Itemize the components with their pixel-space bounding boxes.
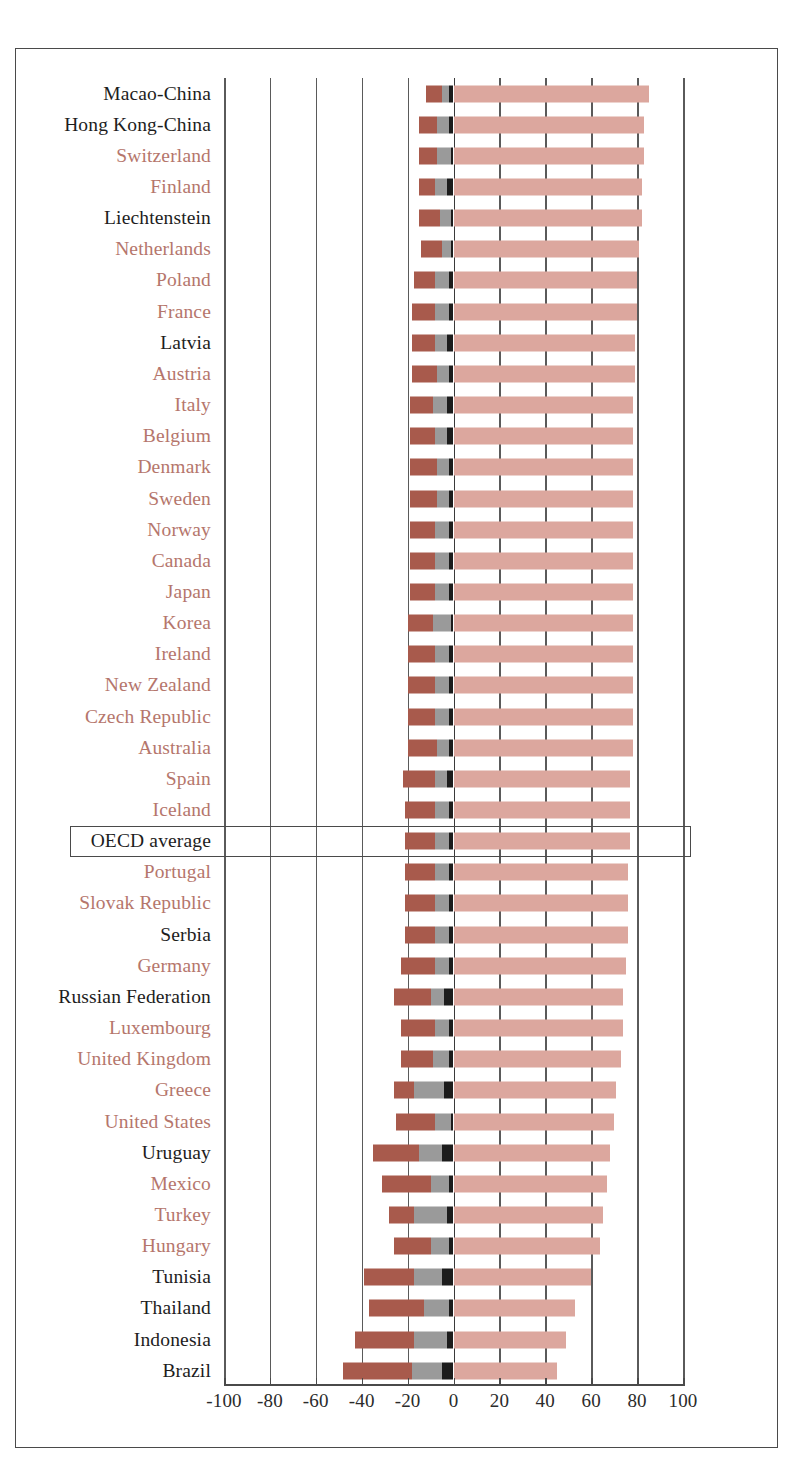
bar-segment-below-level-1 [408, 708, 436, 725]
row-label-slovak-republic: Slovak Republic [79, 894, 211, 914]
bar-segment-level-1 [433, 397, 447, 414]
bar-segment-below-level-1 [410, 397, 433, 414]
bar-segment-below-level-1 [412, 303, 435, 320]
stacked-bar [224, 272, 683, 289]
bar-row: Hungary [0, 1231, 794, 1262]
bar-segment-below-level-1 [419, 210, 440, 227]
bar-segment-level-3-and-above [454, 583, 633, 600]
bar-segment-below-level-1 [408, 739, 438, 756]
bar-segment-below-level-1 [405, 926, 435, 943]
row-label-austria: Austria [153, 364, 211, 384]
row-label-united-kingdom: United Kingdom [77, 1049, 211, 1069]
row-label-mexico: Mexico [151, 1174, 211, 1194]
row-label-liechtenstein: Liechtenstein [104, 208, 211, 228]
stacked-bar [224, 1362, 683, 1379]
bar-segment-level-3-and-above [454, 739, 633, 756]
bar-row: Czech Republic [0, 701, 794, 732]
bar-row: Sweden [0, 483, 794, 514]
stacked-bar [224, 988, 683, 1005]
row-label-serbia: Serbia [160, 925, 211, 945]
bar-row: Netherlands [0, 234, 794, 265]
x-tick-20 [499, 1378, 501, 1386]
bar-segment-level-2 [442, 1144, 453, 1161]
bar-row: Macao-China [0, 78, 794, 109]
stacked-bar [224, 210, 683, 227]
row-label-macao-china: Macao-China [103, 84, 211, 104]
bar-segment-level-1 [435, 179, 446, 196]
bar-segment-below-level-1 [343, 1362, 412, 1379]
row-label-iceland: Iceland [153, 800, 211, 820]
row-label-indonesia: Indonesia [134, 1330, 211, 1350]
bar-segment-level-3-and-above [454, 1238, 601, 1255]
x-tick--60 [316, 1378, 318, 1386]
row-label-japan: Japan [166, 582, 211, 602]
row-label-belgium: Belgium [143, 426, 211, 446]
row-label-italy: Italy [175, 395, 211, 415]
x-tick-label-100: 100 [653, 1390, 713, 1412]
bar-segment-level-1 [435, 770, 446, 787]
bar-segment-level-1 [424, 1300, 449, 1317]
row-label-australia: Australia [138, 738, 211, 758]
row-label-finland: Finland [150, 177, 211, 197]
bar-segment-level-1 [442, 85, 449, 102]
bar-segment-level-3-and-above [454, 677, 633, 694]
bar-segment-level-1 [435, 677, 449, 694]
bar-segment-level-1 [435, 646, 449, 663]
bar-segment-level-3-and-above [454, 708, 633, 725]
bar-row: Belgium [0, 421, 794, 452]
bar-segment-level-3-and-above [454, 1300, 576, 1317]
bar-row: Greece [0, 1075, 794, 1106]
row-label-luxembourg: Luxembourg [109, 1018, 211, 1038]
x-tick-40 [545, 1378, 547, 1386]
bar-segment-level-1 [437, 147, 451, 164]
stacked-bar [224, 615, 683, 632]
bar-segment-level-1 [435, 708, 449, 725]
bar-segment-level-1 [437, 459, 448, 476]
bar-row: Hong Kong-China [0, 109, 794, 140]
bar-segment-level-1 [412, 1362, 442, 1379]
bar-segment-below-level-1 [355, 1331, 415, 1348]
bar-segment-level-3-and-above [454, 1144, 610, 1161]
bar-segment-level-3-and-above [454, 147, 644, 164]
bar-row: Austria [0, 358, 794, 389]
bar-segment-level-1 [435, 864, 449, 881]
bar-segment-level-3-and-above [454, 1362, 557, 1379]
chart-page: Macao-ChinaHong Kong-ChinaSwitzerlandFin… [0, 0, 794, 1477]
bar-segment-below-level-1 [408, 615, 433, 632]
bar-segment-level-1 [414, 1331, 446, 1348]
bar-segment-level-2 [447, 428, 454, 445]
x-tick-60 [591, 1378, 593, 1386]
stacked-bar [224, 957, 683, 974]
bar-segment-level-3-and-above [454, 490, 633, 507]
bar-segment-level-3-and-above [454, 615, 633, 632]
bar-segment-level-1 [442, 241, 451, 258]
bar-segment-below-level-1 [394, 1082, 415, 1099]
bar-segment-level-3-and-above [454, 365, 635, 382]
bar-segment-level-2 [444, 988, 453, 1005]
row-label-portugal: Portugal [144, 863, 211, 883]
bar-segment-below-level-1 [401, 1051, 433, 1068]
stacked-bar [224, 241, 683, 258]
row-label-korea: Korea [163, 613, 211, 633]
bar-row: Thailand [0, 1293, 794, 1324]
stacked-bar [224, 864, 683, 881]
bar-segment-level-3-and-above [454, 895, 628, 912]
stacked-bar [224, 770, 683, 787]
bar-segment-level-3-and-above [454, 428, 633, 445]
bar-segment-level-3-and-above [454, 1206, 603, 1223]
row-label-sweden: Sweden [148, 489, 211, 509]
bar-segment-level-3-and-above [454, 1082, 617, 1099]
bar-segment-below-level-1 [403, 770, 435, 787]
bar-row: Finland [0, 171, 794, 202]
row-label-france: France [157, 302, 211, 322]
bar-row: Poland [0, 265, 794, 296]
bar-segment-level-1 [414, 1082, 444, 1099]
bar-segment-level-3-and-above [454, 1269, 592, 1286]
bar-row: Russian Federation [0, 981, 794, 1012]
x-tick--20 [408, 1378, 410, 1386]
bar-segment-below-level-1 [369, 1300, 424, 1317]
bar-segment-below-level-1 [421, 241, 442, 258]
bar-segment-level-3-and-above [454, 334, 635, 351]
stacked-bar [224, 926, 683, 943]
bar-segment-level-1 [435, 334, 446, 351]
